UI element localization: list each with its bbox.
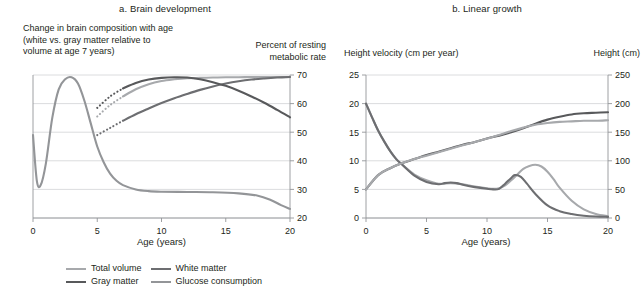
legend-swatch-icon [66,281,86,283]
svg-text:50: 50 [615,185,625,195]
svg-text:10: 10 [482,226,492,236]
panel-b-plot: 051015202505010015020025005101520 [330,0,644,260]
svg-text:0: 0 [363,226,368,236]
svg-text:0: 0 [30,226,35,236]
svg-text:150: 150 [615,128,630,138]
svg-text:100: 100 [615,156,630,166]
svg-text:20: 20 [349,99,359,109]
legend-label: White matter [176,263,227,274]
svg-text:250: 250 [615,70,630,80]
panel-a-xaxis-title: Age (years) [33,236,290,247]
svg-text:15: 15 [349,128,359,138]
svg-text:0: 0 [354,213,359,223]
svg-text:15: 15 [221,226,231,236]
svg-text:0: 0 [615,213,620,223]
svg-text:20: 20 [285,226,295,236]
svg-text:20: 20 [297,213,307,223]
svg-text:5: 5 [354,185,359,195]
panel-a-legend-item: Glucose consumption [151,276,263,287]
svg-text:30: 30 [297,185,307,195]
legend-label: Total volume [91,263,142,274]
legend-label: Gray matter [91,276,139,287]
panel-a-legend-item: Total volume [66,263,142,274]
svg-text:5: 5 [424,226,429,236]
panel-linear-growth: b. Linear growth Height velocity (cm per… [330,0,644,303]
panel-a-legend: Total volumeWhite matterGray matterGluco… [66,263,262,287]
panel-a-plot: 20304050607005101520 [0,0,330,260]
legend-label: Glucose consumption [176,276,263,287]
panel-a-legend-item: Gray matter [66,276,142,287]
svg-text:40: 40 [297,156,307,166]
svg-text:20: 20 [603,226,613,236]
panel-a-legend-item: White matter [151,263,263,274]
panel-b-xaxis-title: Age (years) [352,236,620,247]
legend-swatch-icon [66,268,86,270]
svg-text:15: 15 [542,226,552,236]
panel-brain-development: a. Brain development Change in brain com… [0,0,330,303]
svg-text:60: 60 [297,99,307,109]
svg-text:50: 50 [297,128,307,138]
legend-swatch-icon [151,281,171,283]
svg-text:10: 10 [349,156,359,166]
svg-text:5: 5 [95,226,100,236]
legend-swatch-icon [151,268,171,270]
svg-text:70: 70 [297,70,307,80]
svg-text:200: 200 [615,99,630,109]
svg-text:10: 10 [156,226,166,236]
svg-text:25: 25 [349,70,359,80]
